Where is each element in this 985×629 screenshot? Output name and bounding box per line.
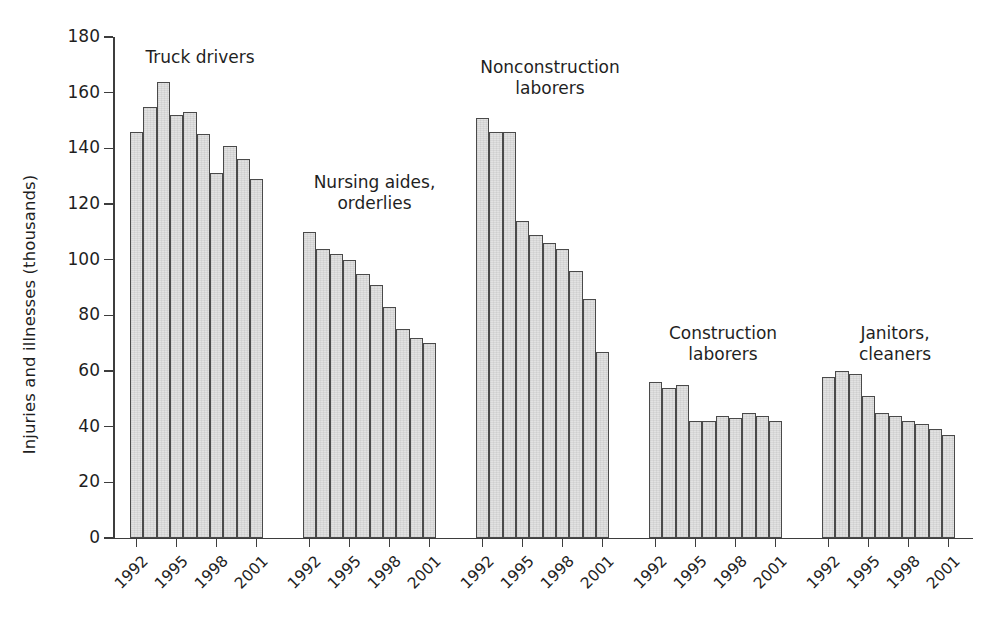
x-tick-label: 2001 xyxy=(225,552,272,599)
bar xyxy=(662,388,675,538)
group-title: Janitors, cleaners xyxy=(815,323,975,365)
y-tick-label: 140 xyxy=(42,137,100,157)
bar xyxy=(476,118,489,538)
x-tick-label: 1992 xyxy=(105,552,152,599)
x-tick-mark xyxy=(948,538,949,547)
y-tick-mark xyxy=(104,315,113,316)
bar xyxy=(769,421,782,538)
bar xyxy=(410,338,423,538)
x-tick-label: 1992 xyxy=(451,552,498,599)
bar xyxy=(756,416,769,538)
x-tick-label: 1998 xyxy=(185,552,232,599)
bar xyxy=(822,377,835,538)
bar xyxy=(902,421,915,538)
bar xyxy=(237,159,250,538)
bar xyxy=(529,235,542,538)
x-tick-mark xyxy=(735,538,736,547)
y-tick-label: 160 xyxy=(42,82,100,102)
bar xyxy=(835,371,848,538)
x-tick-label: 2001 xyxy=(398,552,445,599)
bar xyxy=(197,134,210,538)
bar xyxy=(689,421,702,538)
bar xyxy=(503,132,516,538)
bar xyxy=(862,396,875,538)
bar xyxy=(929,429,942,538)
y-tick-mark xyxy=(104,370,113,371)
x-tick-mark xyxy=(695,538,696,547)
bar xyxy=(569,271,582,538)
bar xyxy=(396,329,409,538)
bar xyxy=(183,112,196,538)
bar xyxy=(423,343,436,538)
y-tick-label: 40 xyxy=(42,416,100,436)
y-tick-label: 0 xyxy=(42,527,100,547)
y-tick-label: 120 xyxy=(42,193,100,213)
y-tick-label: 180 xyxy=(42,26,100,46)
x-tick-mark xyxy=(136,538,137,547)
bar xyxy=(729,418,742,538)
y-axis-title: Injuries and illnesses (thousands) xyxy=(14,0,44,629)
bar xyxy=(676,385,689,538)
bar xyxy=(210,173,223,538)
x-tick-mark xyxy=(429,538,430,547)
group-title: Nursing aides, orderlies xyxy=(292,172,457,214)
bar xyxy=(170,115,183,538)
bar xyxy=(516,221,529,538)
bar xyxy=(143,107,156,538)
x-tick-label: 2001 xyxy=(744,552,791,599)
x-tick-mark xyxy=(908,538,909,547)
bar xyxy=(742,413,755,538)
x-tick-mark xyxy=(602,538,603,547)
bar-chart: Injuries and illnesses (thousands) 02040… xyxy=(0,0,985,629)
x-tick-mark xyxy=(522,538,523,547)
bar xyxy=(556,249,569,538)
y-tick-mark xyxy=(104,537,113,538)
x-tick-label: 1995 xyxy=(664,552,711,599)
x-tick-mark xyxy=(216,538,217,547)
y-tick-mark xyxy=(104,482,113,483)
y-tick-label: 100 xyxy=(42,249,100,269)
x-tick-label: 2001 xyxy=(571,552,618,599)
x-tick-mark xyxy=(349,538,350,547)
y-tick-mark xyxy=(104,92,113,93)
x-tick-label: 1998 xyxy=(531,552,578,599)
bar xyxy=(875,413,888,538)
bar xyxy=(702,421,715,538)
x-tick-label: 1992 xyxy=(278,552,325,599)
bar xyxy=(316,249,329,538)
x-tick-mark xyxy=(655,538,656,547)
bar xyxy=(889,416,902,538)
x-tick-label: 1992 xyxy=(797,552,844,599)
y-tick-mark xyxy=(104,426,113,427)
x-tick-label: 1998 xyxy=(358,552,405,599)
x-tick-label: 2001 xyxy=(917,552,964,599)
bar xyxy=(543,243,556,538)
y-tick-label: 80 xyxy=(42,304,100,324)
x-tick-label: 1995 xyxy=(318,552,365,599)
x-tick-label: 1995 xyxy=(837,552,884,599)
bar xyxy=(915,424,928,538)
x-tick-label: 1992 xyxy=(624,552,671,599)
bar xyxy=(343,260,356,538)
group-title: Nonconstruction laborers xyxy=(455,57,645,99)
bar xyxy=(716,416,729,538)
y-tick-mark xyxy=(104,259,113,260)
group-title: Truck drivers xyxy=(120,47,280,68)
y-tick-label: 60 xyxy=(42,360,100,380)
bar xyxy=(130,132,143,538)
bar xyxy=(356,274,369,538)
x-tick-label: 1995 xyxy=(491,552,538,599)
x-tick-mark xyxy=(309,538,310,547)
bar xyxy=(583,299,596,538)
bar xyxy=(330,254,343,538)
x-tick-mark xyxy=(562,538,563,547)
plot-bars-layer xyxy=(113,37,973,538)
x-tick-mark xyxy=(828,538,829,547)
x-tick-label: 1995 xyxy=(145,552,192,599)
y-tick-mark xyxy=(104,36,113,37)
bar xyxy=(596,352,609,538)
y-tick-label: 20 xyxy=(42,471,100,491)
bar xyxy=(303,232,316,538)
bar xyxy=(223,146,236,538)
bar xyxy=(649,382,662,538)
